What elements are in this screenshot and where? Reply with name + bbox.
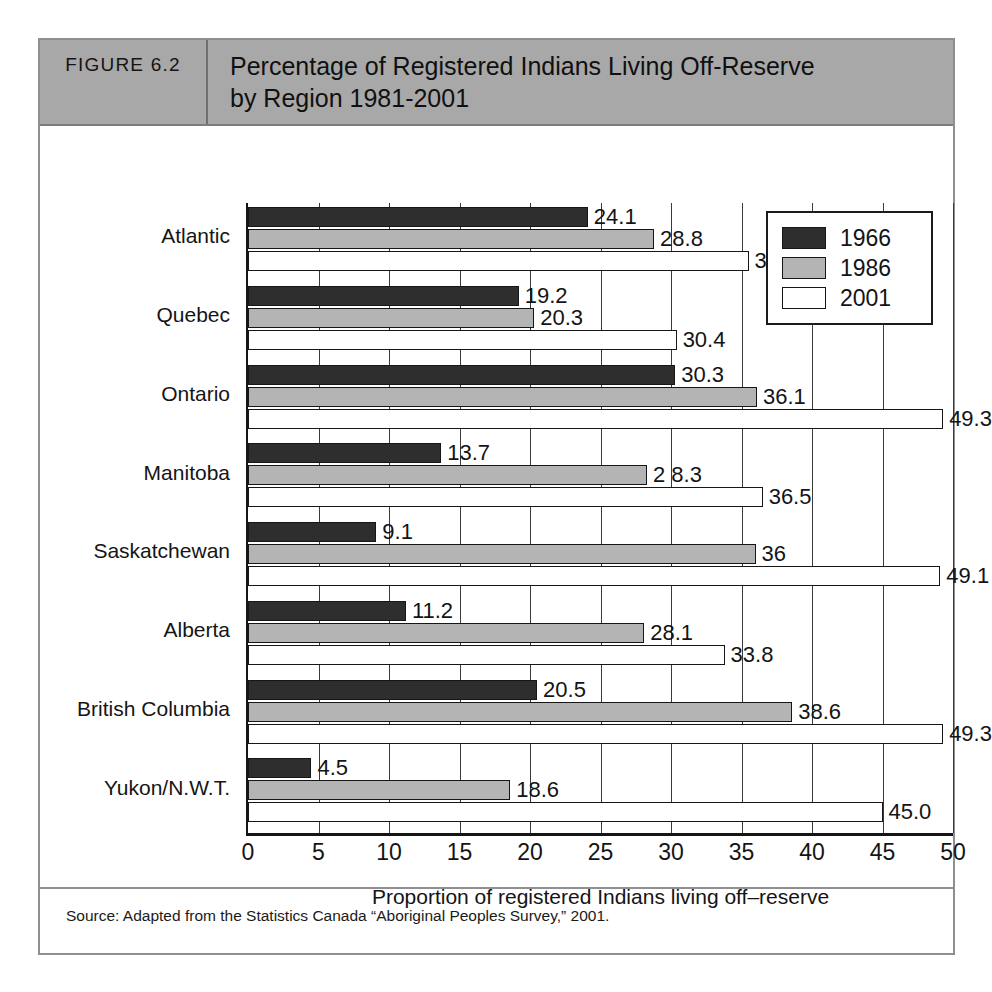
bar-value-label: 30.3 [675, 362, 724, 388]
bar-value-label: 45.0 [883, 799, 932, 825]
bar [248, 443, 441, 463]
bar-value-label: 30.4 [677, 327, 726, 353]
x-tick-label: 30 [658, 839, 684, 866]
bar [248, 645, 725, 665]
bar-row: 45.0 [248, 802, 953, 822]
category-label: British Columbia [77, 697, 230, 721]
x-tick-label: 20 [517, 839, 543, 866]
x-tick-label: 40 [799, 839, 825, 866]
bar [248, 566, 940, 586]
bar-row: 38.6 [248, 702, 953, 722]
bar-row: 13.7 [248, 443, 953, 463]
bar-value-label: 9.1 [376, 519, 413, 545]
chart-body: Atlantic24.128.835.5Quebec19.220.330.4On… [40, 126, 953, 953]
bar-row: 36 [248, 544, 953, 564]
bar [248, 487, 763, 507]
source-note: Source: Adapted from the Statistics Cana… [66, 907, 609, 925]
plot-area: Atlantic24.128.835.5Quebec19.220.330.4On… [248, 203, 953, 833]
legend-item: 1986 [782, 253, 921, 283]
bar-value-label: 4.5 [311, 755, 348, 781]
bar [248, 601, 406, 621]
bar-group: Manitoba13.72 8.336.5 [248, 439, 953, 518]
bar-row: 49.3 [248, 724, 953, 744]
figure-title-line-2: by Region 1981-2001 [230, 82, 939, 114]
x-tick-label: 25 [588, 839, 614, 866]
bar-value-label: 20.3 [534, 305, 583, 331]
bar [248, 802, 883, 822]
bar-row: 11.2 [248, 601, 953, 621]
x-tick-label: 45 [870, 839, 896, 866]
category-label: Saskatchewan [93, 539, 230, 563]
bar [248, 286, 519, 306]
bar-row: 49.3 [248, 409, 953, 429]
bar-value-label: 49.3 [943, 721, 992, 747]
category-label: Quebec [156, 303, 230, 327]
figure-frame: FIGURE 6.2 Percentage of Registered Indi… [38, 38, 955, 955]
legend-item: 2001 [782, 283, 921, 313]
bar-value-label: 49.1 [940, 563, 989, 589]
bar-row: 20.5 [248, 680, 953, 700]
x-tick-label: 5 [312, 839, 325, 866]
bar [248, 623, 644, 643]
bar [248, 702, 792, 722]
bar-value-label: 2 8.3 [647, 462, 702, 488]
bar [248, 330, 677, 350]
legend-label-1966: 1966 [840, 225, 891, 252]
figure-title-line-1: Percentage of Registered Indians Living … [230, 50, 939, 82]
bar-group: British Columbia20.538.649.3 [248, 676, 953, 755]
bar [248, 229, 654, 249]
bar-group: Ontario30.336.149.3 [248, 361, 953, 440]
bar-value-label: 49.3 [943, 406, 992, 432]
bar-row: 49.1 [248, 566, 953, 586]
bar-value-label: 33.8 [725, 642, 774, 668]
bar-row: 30.4 [248, 330, 953, 350]
legend-label-2001: 2001 [840, 285, 891, 312]
bar [248, 387, 757, 407]
bar [248, 207, 588, 227]
bar [248, 365, 675, 385]
bar [248, 724, 943, 744]
bar-row: 33.8 [248, 645, 953, 665]
source-divider [40, 887, 953, 889]
bar-row: 18.6 [248, 780, 953, 800]
bar-row: 4.5 [248, 758, 953, 778]
bar-value-label: 11.2 [406, 598, 453, 624]
x-tick-label: 15 [447, 839, 473, 866]
legend-swatch-1986-icon [782, 257, 826, 279]
bar [248, 780, 510, 800]
x-tick-label: 0 [242, 839, 255, 866]
x-tick-label: 35 [729, 839, 755, 866]
bar [248, 544, 756, 564]
bar-value-label: 28.8 [654, 226, 703, 252]
legend-swatch-2001-icon [782, 287, 826, 309]
bar [248, 308, 534, 328]
bar-row: 30.3 [248, 365, 953, 385]
x-axis-line [246, 833, 953, 836]
bar-row: 2 8.3 [248, 465, 953, 485]
bar [248, 465, 647, 485]
bar [248, 680, 537, 700]
bar-value-label: 36.5 [763, 484, 812, 510]
bar-row: 36.5 [248, 487, 953, 507]
legend: 1966 1986 2001 [766, 211, 933, 325]
bar-row: 9.1 [248, 522, 953, 542]
figure-header: FIGURE 6.2 Percentage of Registered Indi… [40, 40, 953, 126]
bar-group: Alberta11.228.133.8 [248, 597, 953, 676]
bar-group: Saskatchewan9.13649.1 [248, 518, 953, 597]
category-label: Alberta [163, 618, 230, 642]
bar-row: 36.1 [248, 387, 953, 407]
figure-number-label: FIGURE 6.2 [40, 40, 208, 124]
bar-value-label: 38.6 [792, 699, 841, 725]
legend-item: 1966 [782, 223, 921, 253]
bar-value-label: 20.5 [537, 677, 586, 703]
category-label: Ontario [161, 382, 230, 406]
x-tick-label: 10 [376, 839, 402, 866]
x-tick-label: 50 [940, 839, 966, 866]
category-label: Manitoba [144, 461, 230, 485]
category-label: Atlantic [161, 224, 230, 248]
legend-swatch-1966-icon [782, 227, 826, 249]
bar-value-label: 24.1 [588, 204, 637, 230]
bar-value-label: 36 [756, 541, 786, 567]
bar-row: 28.1 [248, 623, 953, 643]
bar-group: Yukon/N.W.T.4.518.645.0 [248, 754, 953, 833]
